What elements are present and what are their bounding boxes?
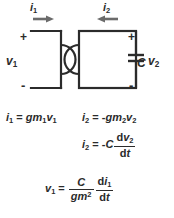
- equation-i1: i1 = gm1v1: [6, 112, 57, 125]
- label-polarity-plus-right: +: [128, 31, 135, 43]
- label-current-i2: i2: [103, 2, 110, 15]
- label-voltage-v1: v1: [6, 55, 17, 69]
- label-polarity-plus-left: +: [20, 31, 27, 43]
- equation-i2-transconductance: i2 = -gm2v2: [82, 112, 136, 125]
- equation-v1: v1 = Cgm2di1dt: [45, 175, 114, 204]
- figure-root: i1 i2 v1 v2 + - + - C i1 = gm1v1 i2 = -g…: [0, 0, 174, 218]
- circuit-svg: [0, 0, 174, 104]
- equation-i2-capacitor: i2 = -Cdv2dt: [82, 131, 136, 160]
- fraction-dv2-dt: dv2dt: [114, 131, 135, 160]
- current-arrow-i2-head: [97, 16, 105, 23]
- label-current-i1: i1: [30, 2, 37, 15]
- label-capacitor-C: C: [137, 57, 146, 69]
- fraction-di1-dt: di1dt: [96, 175, 114, 204]
- current-arrow-i1-head: [46, 16, 54, 23]
- label-polarity-minus-left: -: [21, 79, 25, 92]
- label-polarity-minus-right: -: [129, 79, 133, 92]
- equations-block: i1 = gm1v1 i2 = -gm2v2 i2 = -Cdv2dt v1 =…: [0, 104, 174, 218]
- label-voltage-v2: v2: [148, 55, 159, 69]
- circuit-diagram: i1 i2 v1 v2 + - + - C: [0, 0, 174, 104]
- fraction-C-over-gm2: Cgm2: [69, 176, 94, 203]
